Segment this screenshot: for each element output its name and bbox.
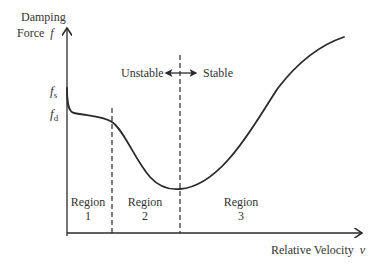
region-2-label: Region: [128, 195, 163, 209]
region-2-number: 2: [142, 209, 148, 223]
region-1-number: 1: [85, 209, 91, 223]
region-3-label: Region: [224, 195, 259, 209]
stable-label: Stable: [203, 66, 233, 80]
region-1-label: Region: [71, 195, 106, 209]
y-axis-symbol: f: [50, 26, 55, 40]
x-axis-symbol: v: [360, 243, 366, 257]
y-axis-label-line1: Damping: [21, 10, 66, 24]
region-3-number: 3: [238, 209, 244, 223]
x-axis-label: Relative Velocity: [271, 243, 354, 257]
tick-fd: fd: [50, 106, 59, 123]
svg-text:Force f: Force f: [17, 26, 55, 40]
unstable-label: Unstable: [121, 66, 164, 80]
y-axis-label-line2: Force: [17, 26, 44, 40]
tick-fs: fs: [50, 83, 58, 100]
damping-force-curve: [67, 37, 344, 189]
damping-force-diagram: Damping Force f fs fd Unstable Stable Re…: [0, 0, 381, 268]
svg-text:Relative Velocity v: Relative Velocity v: [271, 243, 366, 257]
